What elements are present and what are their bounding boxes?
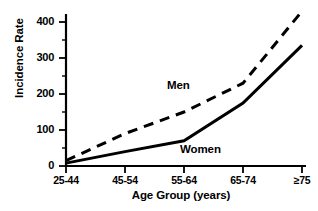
x-tick-label-55-64: 55-64	[159, 174, 209, 186]
y-tick-label-0: 0	[20, 159, 54, 171]
x-axis-title: Age Group (years)	[56, 189, 306, 201]
y-tick-label-200: 200	[20, 87, 54, 99]
series-label-women: Women	[180, 143, 221, 155]
y-tick-label-100: 100	[20, 123, 54, 135]
x-tick-label-45-54: 45-54	[100, 174, 150, 186]
series-label-men: Men	[167, 79, 190, 91]
y-tick-label-400: 400	[20, 15, 54, 27]
y-tick-label-300: 300	[20, 51, 54, 63]
x-tick-label-75-plus: ≥75	[277, 174, 318, 186]
incidence-rate-line-chart: Incidence Rate Age Group (years) 0 100 2…	[0, 0, 318, 211]
x-tick-label-65-74: 65-74	[218, 174, 268, 186]
x-tick-label-25-44: 25-44	[41, 174, 91, 186]
